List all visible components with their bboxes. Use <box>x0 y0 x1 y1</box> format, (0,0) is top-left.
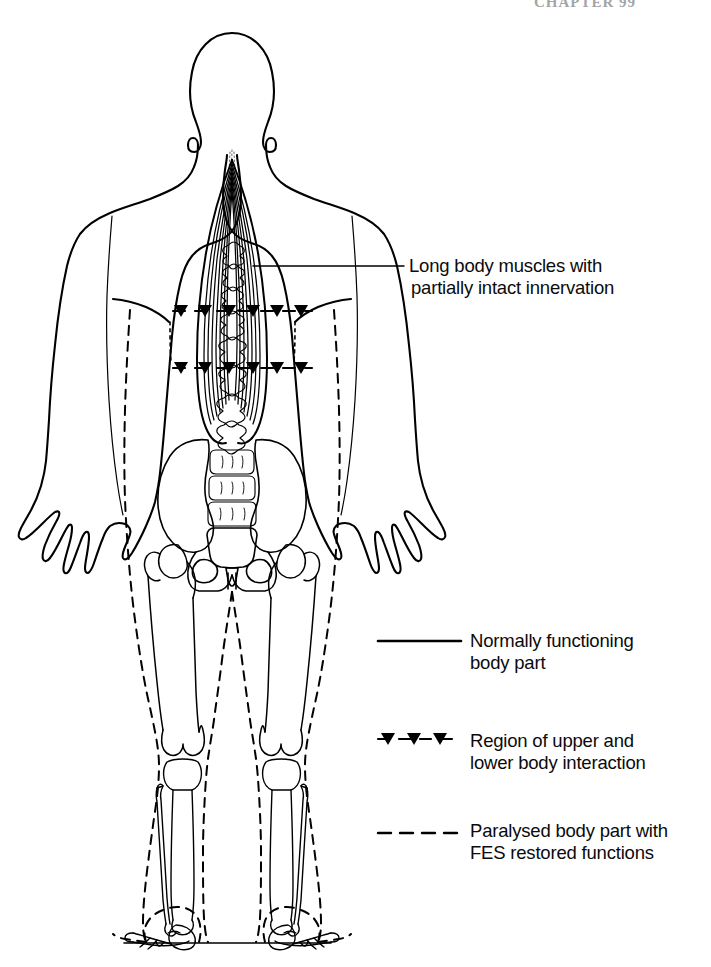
long-body-muscles <box>197 150 267 443</box>
legend-item-paralysed: Paralysed body part with FES restored fu… <box>470 820 711 864</box>
pelvis <box>158 440 306 591</box>
figure-page: CHAPTER 99 <box>0 0 711 967</box>
hip-seam-dotted <box>170 322 295 362</box>
lower-leg-bones <box>156 759 308 936</box>
legend-item-interaction: Region of upper and lower body interacti… <box>470 730 711 774</box>
legend-normal-line-2: body part <box>470 652 711 674</box>
long-body-muscles-callout: Long body muscles with partially intact … <box>409 255 699 299</box>
legend-marker-interaction-triangles <box>381 733 447 745</box>
legend-interaction-line-2: lower body interaction <box>470 752 711 774</box>
legend-normal-line-1: Normally functioning <box>470 630 711 652</box>
legend-paralysed-line-2: FES restored functions <box>470 842 711 864</box>
paralysed-body-outline <box>113 310 351 942</box>
foot-bones <box>125 925 339 950</box>
callout-line-1: Long body muscles with <box>409 255 699 277</box>
legend-interaction-line-1: Region of upper and <box>470 730 711 752</box>
legend-paralysed-line-1: Paralysed body part with <box>470 820 711 842</box>
callout-line-2: partially intact innervation <box>411 277 699 299</box>
legend-item-normal: Normally functioning body part <box>470 630 711 674</box>
